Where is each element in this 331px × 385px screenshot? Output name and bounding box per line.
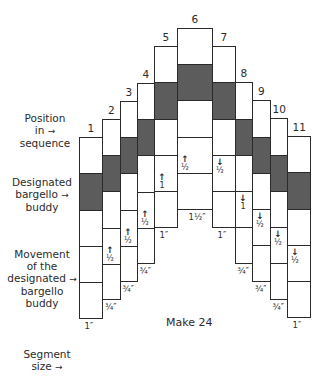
segment — [252, 100, 271, 138]
movement-annotation: ↓½ — [213, 158, 227, 175]
label-line: of the — [6, 260, 78, 272]
movement-value: ½ — [106, 254, 114, 263]
movement-annotation: ↓½ — [288, 248, 302, 265]
label-line: Designated — [6, 176, 78, 188]
segment — [102, 191, 121, 229]
label-line: Segment — [14, 348, 80, 360]
column-number: 1 — [88, 122, 95, 134]
segment — [120, 173, 138, 211]
segment — [212, 46, 236, 83]
arrow-right-icon: → — [55, 362, 63, 372]
segment — [137, 83, 155, 120]
label-designated-buddy: Designated bargello → buddy — [6, 176, 78, 213]
segment-size-label: 1″ — [218, 230, 227, 240]
segment — [287, 209, 311, 246]
column-number: 8 — [241, 67, 248, 79]
movement-annotation: ↓½ — [271, 230, 285, 247]
segment — [270, 263, 288, 300]
segment — [177, 173, 213, 210]
segment — [235, 227, 253, 264]
label-line: designated → — [6, 272, 78, 285]
column-number: 4 — [143, 68, 150, 80]
movement-value: ½ — [274, 238, 282, 247]
segment — [177, 28, 213, 65]
segment — [270, 118, 288, 156]
column-number: 3 — [126, 86, 133, 98]
segment — [212, 191, 236, 228]
segment-size-label: 1½″ — [189, 212, 206, 222]
column-number: 10 — [273, 103, 286, 115]
segment-size-label: ¾″ — [255, 284, 266, 294]
segment — [235, 155, 253, 192]
segment — [79, 137, 103, 174]
segment-size-label: 1″ — [160, 230, 169, 240]
segment-size-label: 1″ — [293, 320, 302, 330]
movement-annotation: ↓½ — [253, 212, 267, 229]
segment — [270, 191, 288, 228]
segment-size-label: ¾″ — [105, 302, 116, 312]
designated-buddy-segment — [235, 119, 253, 156]
column-number: 9 — [258, 85, 265, 97]
designated-buddy-segment — [212, 82, 236, 120]
label-segment-size: Segment size → — [14, 348, 80, 373]
label-line: buddy — [6, 201, 78, 213]
designated-buddy-segment — [177, 64, 213, 101]
label-line: bargello → — [6, 188, 78, 201]
label-movement: Movement of the designated → bargello bu… — [6, 248, 78, 309]
movement-annotation: ↑1 — [155, 173, 169, 190]
movement-value: ½ — [216, 166, 224, 175]
segment — [177, 100, 213, 138]
segment — [120, 246, 138, 282]
segment — [154, 191, 178, 228]
movement-annotation: ↑½ — [103, 246, 117, 263]
segment — [120, 101, 138, 138]
movement-value: ½ — [256, 220, 264, 229]
column-number: 5 — [163, 31, 170, 43]
segment — [137, 228, 155, 264]
arrow-right-icon: → — [48, 126, 56, 136]
segment — [79, 282, 103, 319]
designated-buddy-segment — [252, 137, 271, 174]
segment-size-label: ¾″ — [140, 266, 151, 276]
designated-buddy-segment — [154, 82, 178, 120]
label-line: size → — [14, 360, 80, 373]
label-line: in → — [10, 124, 80, 137]
column-number: 7 — [221, 31, 228, 43]
movement-annotation: ↓1 — [236, 194, 250, 211]
movement-value: ½ — [124, 236, 132, 245]
make-quantity: Make 24 — [166, 316, 212, 329]
segment — [102, 264, 121, 300]
segment — [154, 119, 178, 156]
segment-size-label: ¾″ — [238, 266, 249, 276]
segment — [287, 281, 311, 318]
segment — [212, 119, 236, 156]
arrow-right-icon: → — [61, 190, 69, 200]
segment-size-label: 1″ — [85, 321, 94, 331]
column-number: 11 — [293, 121, 306, 133]
movement-value: 1 — [159, 181, 164, 190]
designated-buddy-segment — [137, 119, 155, 156]
designated-buddy-segment — [79, 173, 103, 211]
segment — [137, 155, 155, 193]
designated-buddy-segment — [102, 155, 121, 192]
label-line: bargello — [6, 285, 78, 297]
movement-annotation: ↑½ — [121, 228, 135, 245]
segment-size-label: ¾″ — [123, 284, 134, 294]
segment — [235, 82, 253, 120]
segment — [252, 245, 271, 282]
label-line: Movement — [6, 248, 78, 260]
segment — [154, 46, 178, 83]
label-position-in-sequence: Position in → sequence — [10, 112, 80, 149]
movement-value: ½ — [181, 163, 189, 172]
movement-value: ½ — [141, 218, 149, 227]
movement-annotation: ↑½ — [178, 155, 192, 172]
designated-buddy-segment — [120, 137, 138, 174]
segment — [252, 173, 271, 210]
designated-buddy-segment — [270, 155, 288, 192]
movement-annotation: ↑½ — [138, 210, 152, 227]
label-line: buddy — [6, 297, 78, 309]
label-line: sequence — [10, 137, 80, 149]
segment — [287, 136, 311, 173]
segment — [79, 210, 103, 247]
column-number: 6 — [192, 13, 199, 25]
